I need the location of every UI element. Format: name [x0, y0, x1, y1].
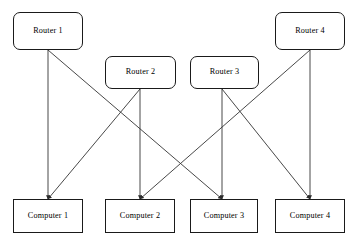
node-label: Computer 3 — [204, 212, 244, 220]
node-computer-1[interactable]: Computer 1 — [13, 199, 83, 233]
node-label: Computer 4 — [290, 212, 330, 220]
node-computer-4[interactable]: Computer 4 — [275, 199, 345, 233]
node-router-4[interactable]: Router 4 — [275, 12, 345, 50]
node-label: Computer 2 — [120, 212, 160, 220]
node-router-1[interactable]: Router 1 — [13, 12, 83, 50]
node-router-2[interactable]: Router 2 — [105, 56, 176, 89]
edges-group — [48, 50, 310, 199]
node-label: Router 1 — [33, 27, 63, 35]
node-label: Router 2 — [126, 68, 156, 76]
node-router-3[interactable]: Router 3 — [190, 56, 259, 89]
edge-r2-c1 — [48, 89, 140, 199]
network-diagram: Router 1 Router 2 Router 3 Router 4 Comp… — [0, 0, 357, 247]
node-label: Router 4 — [295, 27, 325, 35]
node-label: Computer 1 — [28, 212, 68, 220]
node-computer-3[interactable]: Computer 3 — [190, 199, 258, 233]
node-computer-2[interactable]: Computer 2 — [105, 199, 175, 233]
edge-r3-c4 — [222, 89, 310, 199]
node-label: Router 3 — [210, 68, 240, 76]
